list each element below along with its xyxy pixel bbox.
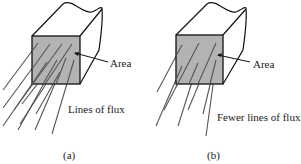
area-face-a — [32, 36, 80, 84]
panel-a: Area Lines of flux (a) — [3, 3, 131, 162]
area-label-a: Area — [110, 57, 131, 69]
flux-label-b: Fewer lines of flux — [217, 111, 301, 123]
area-label-b: Area — [253, 58, 274, 70]
area-face-b — [176, 35, 223, 84]
flux-diagram: Area Lines of flux (a) Area Fewer line — [0, 0, 301, 164]
panel-b: Area Fewer lines of flux (b) — [156, 3, 301, 162]
caption-a: (a) — [63, 149, 76, 162]
caption-b: (b) — [207, 149, 220, 162]
flux-label-a: Lines of flux — [68, 103, 125, 115]
